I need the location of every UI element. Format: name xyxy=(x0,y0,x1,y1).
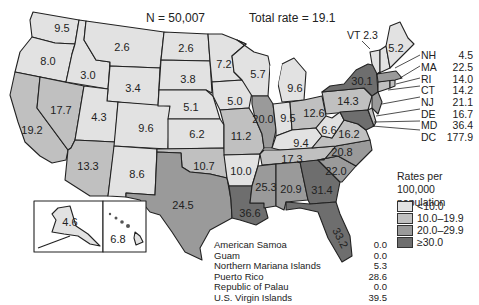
legend-swatch xyxy=(397,237,413,248)
state-label-VA: 16.2 xyxy=(338,129,359,140)
territory-row: American Samoa0.0 xyxy=(214,240,387,251)
state-label-NM: 8.6 xyxy=(129,169,144,180)
state-label-TX: 24.5 xyxy=(172,200,193,211)
state-label-AR: 10.0 xyxy=(230,166,251,177)
state-label-KY: 9.4 xyxy=(293,138,308,149)
legend-swatch xyxy=(397,213,413,224)
state-label-SC: 22.0 xyxy=(325,166,346,177)
territory-row: Republic of Palau0.0 xyxy=(214,282,387,293)
state-label-MS: 25.3 xyxy=(255,182,276,193)
state-label-MT: 2.6 xyxy=(114,42,129,53)
state-label-IL: 20.0 xyxy=(252,114,273,125)
territories-table: American Samoa0.0 Guam0.0 Northern Maria… xyxy=(214,240,387,303)
state-RI xyxy=(390,80,395,88)
state-label-PA: 14.3 xyxy=(337,96,358,107)
n-label: N = 50,007 xyxy=(146,11,205,25)
territory-row: U.S. Virgin Islands39.5 xyxy=(214,293,387,304)
state-label-MN: 7.2 xyxy=(216,59,231,70)
state-MI xyxy=(278,58,306,102)
state-label-CA: 19.2 xyxy=(21,125,42,136)
legend-swatch xyxy=(397,225,413,236)
state-label-ID: 3.0 xyxy=(80,70,95,81)
state-label-NE: 5.1 xyxy=(183,102,198,113)
callout-row: DC177.9 xyxy=(421,131,473,145)
state-label-OK: 10.7 xyxy=(193,161,214,172)
state-label-WI: 5.7 xyxy=(250,69,265,80)
state-label-NY: 30.1 xyxy=(351,76,372,87)
state-label-IN: 9.5 xyxy=(280,113,295,124)
state-label-NC: 20.8 xyxy=(331,147,352,158)
vt-callout: VT 2.3 xyxy=(347,29,378,41)
state-label-GA: 31.4 xyxy=(311,185,332,196)
state-label-SD: 3.8 xyxy=(180,74,195,85)
state-label-OR: 8.0 xyxy=(40,56,55,67)
state-label-MI: 9.6 xyxy=(287,83,302,94)
total-rate-label: Total rate = 19.1 xyxy=(249,11,335,25)
state-label-WV: 6.6 xyxy=(321,125,336,136)
territory-row: Northern Mariana Islands5.3 xyxy=(214,261,387,272)
state-label-WA: 9.5 xyxy=(54,23,69,34)
state-label-IA: 5.0 xyxy=(227,96,242,107)
state-label-UT: 4.3 xyxy=(91,112,106,123)
state-label-TN: 17.3 xyxy=(281,154,302,165)
state-label-HI: 6.8 xyxy=(110,234,125,245)
state-label-CO: 9.6 xyxy=(138,123,153,134)
state-label-ND: 2.6 xyxy=(178,43,193,54)
state-label-NV: 17.7 xyxy=(50,105,71,116)
state-label-MO: 11.2 xyxy=(231,131,252,142)
state-label-ME: 5.2 xyxy=(388,43,403,54)
state-label-AL: 20.9 xyxy=(280,184,301,195)
state-label-KS: 6.2 xyxy=(189,129,204,140)
state-label-OH: 12.6 xyxy=(303,108,324,119)
state-label-AZ: 13.3 xyxy=(77,161,98,172)
legend-swatch xyxy=(397,201,413,212)
state-label-LA: 36.6 xyxy=(239,208,260,219)
state-label-AK: 4.6 xyxy=(62,217,77,228)
state-NJ xyxy=(372,92,382,114)
state-label-WY: 3.4 xyxy=(125,83,140,94)
